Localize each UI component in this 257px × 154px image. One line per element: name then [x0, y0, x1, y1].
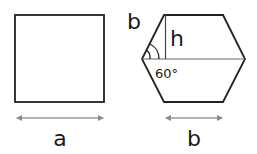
- square-side-label: a: [53, 126, 66, 151]
- angle-label: 60°: [155, 66, 178, 81]
- hexagon-side-label-bottom: b: [187, 126, 201, 151]
- hexagon-side-label-top: b: [127, 9, 141, 34]
- angle-arc-outer: [150, 44, 159, 59]
- diagram-canvas: a b h 60° b: [0, 0, 257, 154]
- square-shape: [15, 15, 104, 102]
- angle-arc-icon: [147, 50, 151, 59]
- height-label: h: [170, 26, 184, 51]
